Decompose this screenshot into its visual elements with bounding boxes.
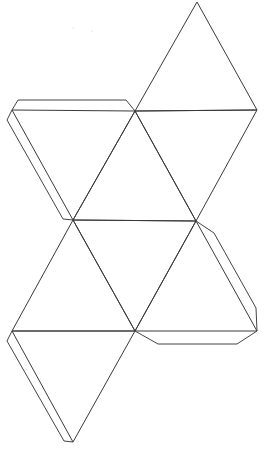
tab-left-lower bbox=[7, 331, 73, 442]
face-8 bbox=[12, 331, 135, 442]
octahedron-net-diagram bbox=[0, 0, 266, 450]
face-6 bbox=[135, 221, 257, 331]
face-2 bbox=[135, 110, 257, 221]
tab-top-left bbox=[12, 100, 135, 111]
tab-bottom-right bbox=[135, 331, 257, 344]
face-7 bbox=[12, 220, 135, 331]
face-3 bbox=[12, 110, 135, 220]
face-5 bbox=[73, 220, 196, 331]
face-1 bbox=[135, 2, 257, 111]
scan-noise bbox=[72, 27, 92, 31]
face-4 bbox=[73, 111, 196, 221]
tab-left-upper bbox=[7, 110, 73, 220]
net-faces bbox=[12, 2, 257, 442]
